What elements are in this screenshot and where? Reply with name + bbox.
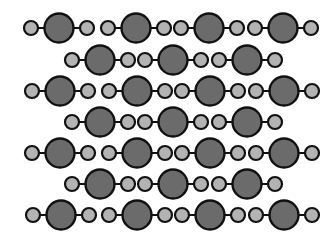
central-atom: [270, 201, 299, 230]
central-atom: [123, 201, 152, 230]
outer-atom-right: [268, 177, 282, 191]
outer-atom-right: [231, 208, 245, 222]
lattice-svg: [0, 0, 334, 241]
outer-atom-left: [212, 177, 226, 191]
outer-atom-right: [158, 84, 172, 98]
molecular-lattice-diagram: [0, 0, 334, 241]
outer-atom-left: [102, 208, 116, 222]
outer-atom-left: [248, 21, 262, 35]
outer-atom-right: [194, 115, 208, 129]
outer-atom-right: [80, 21, 94, 35]
outer-atom-right: [121, 177, 135, 191]
central-atom: [270, 77, 299, 106]
outer-atom-left: [25, 146, 39, 160]
outer-atom-left: [212, 115, 226, 129]
central-atom: [159, 108, 188, 137]
outer-atom-left: [175, 146, 189, 160]
molecule-row: [65, 170, 282, 199]
molecule: [65, 108, 135, 137]
molecule: [101, 14, 171, 43]
central-atom: [196, 201, 225, 230]
central-atom: [123, 77, 152, 106]
outer-atom-right: [231, 146, 245, 160]
outer-atom-left: [102, 84, 116, 98]
outer-atom-left: [174, 21, 188, 35]
molecule: [212, 46, 282, 75]
molecule: [102, 201, 172, 230]
outer-atom-left: [65, 115, 79, 129]
central-atom: [270, 139, 299, 168]
outer-atom-left: [138, 53, 152, 67]
central-atom: [233, 46, 262, 75]
central-atom: [159, 170, 188, 199]
outer-atom-right: [81, 84, 95, 98]
outer-atom-right: [194, 53, 208, 67]
outer-atom-right: [305, 208, 319, 222]
outer-atom-left: [138, 115, 152, 129]
molecule-row: [26, 201, 319, 230]
molecule: [249, 139, 319, 168]
outer-atom-right: [121, 53, 135, 67]
outer-atom-right: [82, 208, 96, 222]
molecule: [65, 170, 135, 199]
central-atom: [196, 139, 225, 168]
central-atom: [46, 77, 75, 106]
outer-atom-right: [230, 21, 244, 35]
central-atom: [122, 14, 151, 43]
outer-atom-right: [121, 115, 135, 129]
outer-atom-left: [249, 84, 263, 98]
outer-atom-right: [231, 84, 245, 98]
outer-atom-right: [268, 115, 282, 129]
central-atom: [269, 14, 298, 43]
molecule: [212, 108, 282, 137]
molecule-row: [65, 108, 282, 137]
molecule: [175, 201, 245, 230]
molecule: [174, 14, 244, 43]
molecule: [25, 77, 95, 106]
molecule-row: [24, 14, 318, 43]
molecule: [24, 14, 94, 43]
molecule: [212, 170, 282, 199]
molecule-row: [25, 139, 319, 168]
molecule: [102, 77, 172, 106]
outer-atom-right: [305, 146, 319, 160]
central-atom: [86, 46, 115, 75]
central-atom: [47, 201, 76, 230]
central-atom: [195, 14, 224, 43]
outer-atom-left: [65, 53, 79, 67]
central-atom: [196, 77, 225, 106]
outer-atom-right: [81, 146, 95, 160]
molecule-row: [65, 46, 282, 75]
outer-atom-right: [194, 177, 208, 191]
molecule: [249, 77, 319, 106]
outer-atom-left: [101, 21, 115, 35]
central-atom: [86, 170, 115, 199]
molecule: [138, 108, 208, 137]
molecule: [102, 139, 172, 168]
molecule: [175, 77, 245, 106]
outer-atom-left: [175, 84, 189, 98]
outer-atom-right: [158, 146, 172, 160]
central-atom: [86, 108, 115, 137]
molecule: [248, 14, 318, 43]
outer-atom-left: [65, 177, 79, 191]
outer-atom-left: [24, 21, 38, 35]
molecule: [138, 46, 208, 75]
central-atom: [123, 139, 152, 168]
central-atom: [46, 139, 75, 168]
outer-atom-left: [249, 208, 263, 222]
outer-atom-right: [305, 84, 319, 98]
outer-atom-right: [157, 21, 171, 35]
molecule: [175, 139, 245, 168]
central-atom: [45, 14, 74, 43]
molecule: [26, 201, 96, 230]
outer-atom-left: [138, 177, 152, 191]
outer-atom-right: [268, 53, 282, 67]
central-atom: [233, 170, 262, 199]
central-atom: [159, 46, 188, 75]
outer-atom-left: [249, 146, 263, 160]
outer-atom-right: [158, 208, 172, 222]
molecule: [249, 201, 319, 230]
outer-atom-left: [212, 53, 226, 67]
molecule: [25, 139, 95, 168]
